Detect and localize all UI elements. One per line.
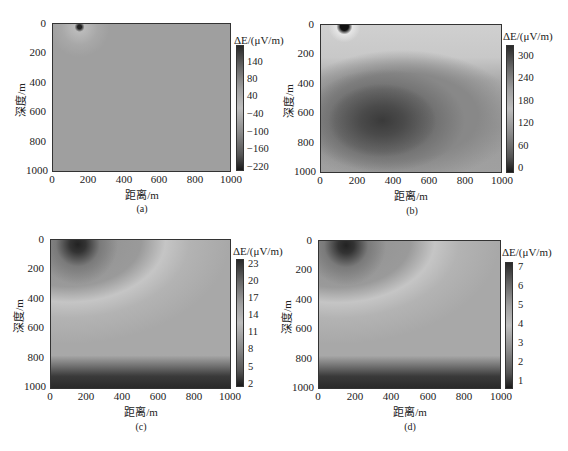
colorbar-tick: 11 [248,327,258,337]
subfigure-label: (c) [126,421,156,432]
y-tick: 0 [16,18,46,29]
colorbar-tick: −40 [247,109,263,119]
colorbar-tick: 7 [518,262,523,272]
colorbar-tick: 60 [518,141,529,151]
x-tick: 200 [71,391,101,402]
colorbar-tick: 5 [248,362,253,372]
x-tick: 800 [179,391,209,402]
colorbar-tick: −220 [247,162,269,172]
colorbar-tick: 180 [518,96,534,106]
y-tick: 200 [284,48,314,59]
y-axis-label: 深度/m [10,286,26,346]
x-tick: 0 [305,175,335,186]
x-tick: 600 [143,391,173,402]
y-tick: 200 [16,47,46,58]
colorbar-tick: 1 [518,376,523,386]
subfigure-label: (b) [397,205,427,216]
colorbar-tick: 80 [247,74,258,84]
x-tick: 200 [342,175,372,186]
x-axis-label: 距离/m [112,186,172,202]
y-tick: 0 [284,19,314,30]
subfigure-label: (d) [395,421,425,432]
colorbar-title: ΔE/(μV/m) [502,246,552,258]
y-axis-label: 深度/m [278,287,294,347]
colorbar-tick: 140 [247,57,263,67]
x-tick: 1000 [486,391,516,402]
y-axis-label: 深度/m [12,70,28,130]
colorbar-tick: 14 [248,310,259,320]
colorbar-tick: −100 [247,127,269,137]
y-tick: 200 [14,263,44,274]
colorbar [506,45,514,173]
x-tick: 200 [73,174,103,185]
y-tick: 800 [282,353,312,364]
colorbar-tick: 8 [248,344,253,354]
colorbar-tick: 0 [518,163,523,173]
x-tick: 1000 [487,175,517,186]
colorbar-tick: 3 [518,338,523,348]
y-tick: 800 [14,352,44,363]
heatmap-c [50,239,231,389]
x-tick: 1000 [215,391,245,402]
x-tick: 800 [449,391,479,402]
x-tick: 0 [303,391,333,402]
heatmap-b [320,24,502,173]
y-axis-label: 深度/m [280,71,296,131]
colorbar-tick: 4 [518,319,523,329]
x-tick: 200 [340,391,370,402]
x-axis-label: 距离/m [111,403,171,419]
colorbar-title: ΔE/(μV/m) [233,245,283,257]
x-tick: 600 [413,391,443,402]
colorbar-tick: 40 [247,91,258,101]
heatmap-d [318,240,501,389]
x-tick: 600 [414,175,444,186]
colorbar-tick: 2 [248,379,253,389]
x-tick: 400 [376,391,406,402]
colorbar-tick: −160 [247,144,269,154]
x-tick: 400 [378,175,408,186]
x-axis-label: 距离/m [380,403,440,419]
x-tick: 1000 [216,174,246,185]
colorbar-tick: 120 [518,118,534,128]
x-tick: 0 [35,391,65,402]
colorbar-tick: 2 [518,357,523,367]
colorbar [236,45,244,171]
colorbar [505,262,513,389]
x-tick: 400 [107,391,137,402]
heatmap-a [52,23,231,172]
y-tick: 0 [282,235,312,246]
colorbar-tick: 300 [518,51,534,61]
x-axis-label: 距离/m [381,187,441,203]
colorbar-tick: 6 [518,281,523,291]
x-tick: 800 [450,175,480,186]
y-tick: 200 [282,264,312,275]
y-tick: 800 [16,136,46,147]
colorbar-tick: 240 [518,73,534,83]
subfigure-label: (a) [127,203,157,214]
colorbar [236,259,244,387]
x-tick: 800 [180,174,210,185]
y-tick: 800 [284,137,314,148]
x-tick: 600 [144,174,174,185]
colorbar-tick: 23 [248,259,259,269]
x-tick: 0 [37,174,67,185]
colorbar-tick: 5 [518,300,523,310]
colorbar-tick: 20 [248,276,259,286]
colorbar-tick: 17 [248,293,259,303]
colorbar-title: ΔE/(μV/m) [503,30,553,42]
x-tick: 400 [109,174,139,185]
y-tick: 0 [14,234,44,245]
